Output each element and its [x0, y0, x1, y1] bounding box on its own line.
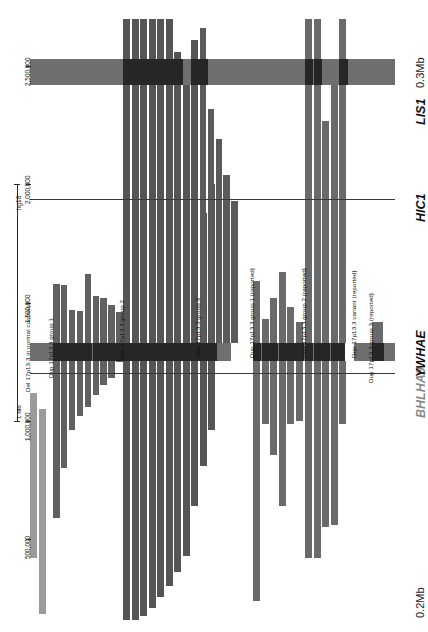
gene-band-overlap — [123, 59, 132, 85]
cnv-bar — [140, 19, 147, 616]
scale-bar-cap — [14, 184, 20, 185]
gene-band-overlap — [166, 59, 175, 85]
gene-band-overlap — [132, 343, 141, 362]
cnv-bar — [166, 19, 173, 587]
gene-band-overlap — [262, 343, 270, 362]
gene-label-ywhae: YWHAE — [414, 330, 428, 377]
gene-band-overlap — [157, 59, 166, 85]
axis-tick-label: 1,500,000 — [24, 294, 31, 322]
cnv-bar — [231, 201, 237, 354]
group-label: Dup 17p13.3 group 1 (reported) — [248, 268, 255, 358]
scale-bar-label: 1 Mb — [15, 405, 22, 419]
axis-tick-mark — [26, 66, 31, 67]
gene-band-overlap — [61, 343, 69, 362]
gene-reference-line — [30, 199, 395, 200]
cnv-bar — [322, 121, 329, 528]
gene-label-lis1: LIS1 — [414, 99, 428, 125]
gene-band-overlap — [157, 343, 166, 362]
gene-band-overlap — [93, 343, 101, 362]
gene-band-overlap — [322, 343, 330, 362]
cnv-bar — [132, 19, 139, 620]
gene-band-overlap — [314, 343, 322, 362]
cnv-bar — [174, 52, 181, 573]
corner-label-bottom-right: 0.2Mb — [414, 587, 426, 618]
cnv-bar — [69, 310, 76, 431]
gene-band-overlap — [149, 59, 158, 85]
group-label: Dup 17p13.3 group 2 (reported) — [300, 268, 307, 358]
gene-label-hic1: HIC1 — [414, 194, 428, 222]
axis-tick-mark — [26, 303, 31, 304]
cnv-bar — [85, 274, 92, 407]
cnv-bar — [157, 19, 164, 597]
group-label: Dup 17p13.3 group 1 — [47, 318, 54, 378]
gene-band-overlap — [279, 343, 287, 362]
cnv-bar — [223, 175, 229, 354]
group-label: Dup 17p13.3 group 2 — [118, 300, 125, 360]
axis-tick-label: 2,500,000 — [24, 58, 31, 86]
corner-label-top-right: 0.3Mb — [414, 57, 426, 88]
cnv-bar — [77, 311, 84, 416]
group-label: Dup 17p13.3 group 3 (reported) — [367, 293, 374, 383]
cnv-bar — [208, 109, 214, 355]
gene-band-overlap — [305, 59, 313, 85]
cnv-bar — [287, 307, 294, 424]
cnv-bar — [279, 272, 286, 506]
cnv-bar — [331, 64, 338, 525]
gene-band-overlap — [287, 343, 295, 362]
cnv-bar — [262, 319, 269, 424]
gene-band-overlap — [183, 343, 192, 362]
gene-band-overlap — [77, 343, 85, 362]
cnv-bar — [270, 298, 277, 455]
axis-tick-mark — [26, 184, 31, 185]
cnv-bar — [39, 409, 46, 614]
gene-band-overlap — [200, 59, 208, 85]
gene-band-overlap — [331, 343, 339, 362]
gene-band-overlap — [270, 343, 278, 362]
cnv-bar — [216, 139, 222, 354]
gene-band-overlap — [339, 59, 347, 85]
cnv-bar — [183, 77, 190, 556]
gene-band-overlap — [85, 343, 93, 362]
gene-band-overlap — [314, 59, 322, 85]
gene-band-overlap — [174, 343, 183, 362]
scale-bar-cap — [14, 421, 20, 422]
gene-band-overlap — [140, 343, 149, 362]
gene-band-overlap — [100, 343, 108, 362]
gene-band-overlap — [69, 343, 77, 362]
scale-bar — [17, 184, 18, 421]
axis-tick-label: 1,000,000 — [24, 412, 31, 440]
gene-band-overlap — [166, 343, 175, 362]
axis-tick-mark — [26, 539, 31, 540]
axis-tick-mark — [26, 421, 31, 422]
cnv-bar — [108, 305, 115, 378]
gene-band-overlap — [108, 343, 116, 362]
cnv-bar — [149, 19, 156, 608]
group-label: Dup 17p13.3 variant (reported) — [350, 270, 357, 358]
group-label: Dup 17p13.3 group 3 — [194, 298, 201, 358]
gene-band-overlap — [53, 343, 61, 362]
cnv-bar — [314, 19, 321, 558]
gene-band-overlap — [208, 343, 217, 362]
cnv-bar — [61, 285, 68, 468]
gene-band-overlap — [191, 59, 200, 85]
gene-band-overlap — [140, 59, 149, 85]
gene-band-overlap — [132, 59, 141, 85]
cnv-bar — [191, 40, 198, 506]
axis-tick-label: 2,000,000 — [24, 176, 31, 204]
gene-reference-line — [30, 373, 395, 374]
gene-band-overlap — [174, 59, 183, 85]
gene-band-overlap — [149, 343, 158, 362]
